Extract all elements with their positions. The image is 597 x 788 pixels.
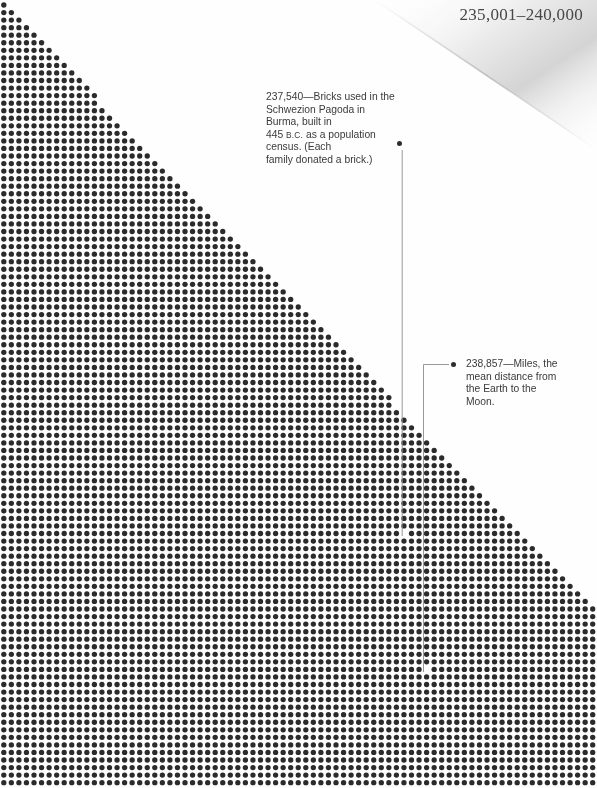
- page-canvas: 235,001–240,000 237,540—Bricks used in t…: [0, 0, 597, 788]
- annotation-237540-line-4: family donated a brick.): [266, 154, 400, 167]
- annotation-237540-line-2: Schwezion Pagoda in Burma, built in: [266, 104, 400, 129]
- annotation-238857: 238,857—Miles, the mean distance from th…: [466, 358, 550, 408]
- annotation-237540-era-label: B.C.: [286, 130, 303, 140]
- annotation-237540-line-1: 237,540—Bricks used in the: [266, 91, 400, 104]
- annotation-238857-line-2: mean distance from: [466, 371, 556, 382]
- annotation-238857-line-1: 238,857—Miles, the: [466, 358, 558, 369]
- page-range-header: 235,001–240,000: [460, 5, 584, 25]
- annotation-237540: 237,540—Bricks used in the Schwezion Pag…: [266, 91, 400, 167]
- annotation-237540-line-3-pre: 445: [266, 129, 286, 140]
- annotation-238857-line-3: the Earth to the: [466, 383, 536, 394]
- annotation-237540-line-3: 445 B.C. as a population census. (Each: [266, 129, 400, 154]
- annotation-238857-line-4: Moon.: [466, 396, 495, 407]
